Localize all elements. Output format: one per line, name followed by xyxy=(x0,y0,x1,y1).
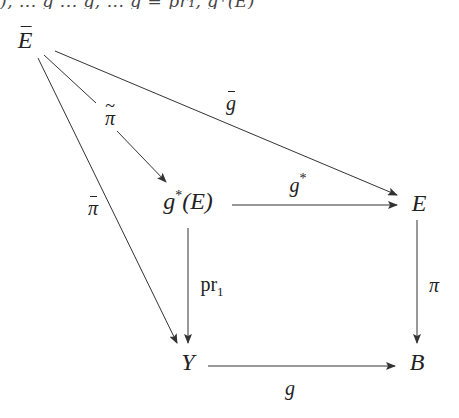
label-g-bar-text: g xyxy=(226,93,236,113)
arrow-pi-tilde-upper xyxy=(44,55,96,103)
node-b: B xyxy=(410,350,425,374)
node-g-star-e-suffix: (E) xyxy=(182,188,213,214)
label-g-star-sup: * xyxy=(300,171,307,186)
node-y-text: Y xyxy=(181,349,194,375)
label-pi: π xyxy=(429,275,439,295)
label-pi-bar-text: π xyxy=(88,198,98,218)
node-g-star-e: g*(E) xyxy=(163,189,213,217)
node-e-bar-text: E xyxy=(18,28,33,52)
node-b-text: B xyxy=(410,349,425,375)
arrow-pi-tilde-lower xyxy=(117,131,166,182)
node-e-text: E xyxy=(412,190,427,216)
label-pi-text: π xyxy=(429,274,439,296)
label-pr1: pr1 xyxy=(200,274,223,297)
label-g-bar: g xyxy=(226,93,236,113)
label-pi-bar: π xyxy=(88,198,98,218)
diagram-arrows xyxy=(0,0,459,418)
node-e: E xyxy=(412,191,427,215)
node-e-bar: E xyxy=(18,28,33,52)
label-g-star-base: g xyxy=(290,174,300,196)
node-g-star-e-sup: * xyxy=(175,188,182,203)
label-pr1-base: pr xyxy=(200,273,217,295)
label-pi-tilde: π xyxy=(105,108,115,128)
label-pi-tilde-text: π xyxy=(105,108,115,128)
label-g-text: g xyxy=(285,377,295,399)
label-pr1-sub: 1 xyxy=(217,284,224,299)
node-g-star-e-base: g xyxy=(163,188,175,214)
label-g: g xyxy=(285,378,295,398)
label-g-star: g* xyxy=(290,175,307,198)
node-y: Y xyxy=(181,350,194,374)
